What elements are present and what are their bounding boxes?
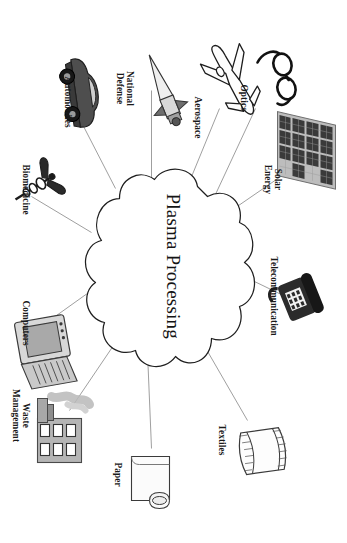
node-label-national-defense: National Defense [113, 58, 133, 118]
paper-roll-icon [121, 448, 179, 518]
node-label-paper: Paper [111, 462, 121, 486]
missile-icon [137, 48, 187, 132]
caduceus-icon [5, 158, 61, 222]
node-label-biomedicine: Biomedicine [19, 164, 29, 214]
diagram-figure: Plasma Processing [0, 0, 347, 543]
node-label-national-defense-line1: National [124, 71, 134, 106]
node-label-computers: Computers [19, 300, 29, 345]
node-label-telecommunication: Telecommunication [267, 256, 277, 335]
node-label-waste-management-line2: Management [10, 388, 20, 441]
node-label-waste-management: Waste Management [9, 376, 29, 454]
airplane-icon [203, 36, 263, 122]
node-label-solar-energy-line2: Energy [262, 164, 272, 194]
factory-icon [29, 388, 95, 472]
node-label-optics: Optics [237, 84, 247, 110]
node-label-solar-energy-line1: Solar [272, 168, 282, 190]
node-label-automobiles: Automobiles [61, 76, 71, 127]
node-label-solar-energy: Solar Energy [261, 158, 281, 200]
center-node-label: Plasma Processing [161, 193, 183, 338]
node-label-national-defense-line2: Defense [114, 72, 124, 104]
fabric-roll-icon [229, 420, 289, 482]
node-label-textiles: Textiles [215, 424, 225, 455]
node-label-aerospace: Aerospace [191, 96, 201, 138]
node-label-waste-management-line1: Waste [20, 403, 30, 428]
diagram-canvas: Plasma Processing [0, 0, 347, 543]
